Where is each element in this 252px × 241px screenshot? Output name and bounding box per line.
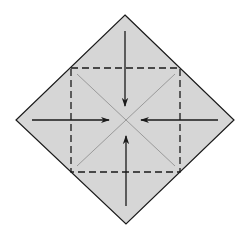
- origami-diagram: [0, 0, 252, 241]
